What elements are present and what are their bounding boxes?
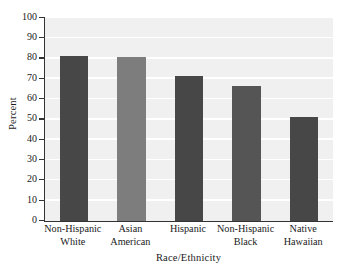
y-axis-tick-label: 100 (22, 10, 37, 23)
bar-5 (290, 117, 319, 221)
y-axis-title: Percent (7, 79, 18, 149)
x-axis-label-line2: American (89, 236, 172, 249)
bar-3 (175, 76, 204, 221)
x-axis-label-line1: Asian (119, 223, 143, 234)
y-axis-tick-label: 90 (27, 30, 37, 43)
y-axis-tick-label: 30 (27, 152, 37, 165)
y-axis-tick-label: 20 (27, 172, 37, 185)
y-axis-tick-label: 50 (27, 111, 37, 124)
y-axis-tick-label: 40 (27, 132, 37, 145)
x-axis-label-line1: Native (290, 223, 317, 234)
x-axis-label-5: NativeHawaiian (262, 223, 345, 248)
x-axis-title: Race/Ethnicity (44, 252, 333, 263)
bar-4 (232, 86, 261, 221)
plot-area: 0102030405060708090100 (44, 18, 333, 222)
bars-group (45, 18, 333, 221)
y-axis-tick-label: 70 (27, 71, 37, 84)
x-axis-label-line2: Hawaiian (262, 236, 345, 249)
y-axis-tick-label: 10 (27, 193, 37, 206)
bar-chart-figure: Percent 0102030405060708090100 Non-Hispa… (0, 0, 345, 277)
y-axis-tick-label: 80 (27, 50, 37, 63)
bar-1 (60, 56, 89, 221)
bar-2 (117, 57, 146, 221)
y-axis-tick-label: 60 (27, 91, 37, 104)
x-axis-label-line1: Hispanic (170, 223, 206, 234)
